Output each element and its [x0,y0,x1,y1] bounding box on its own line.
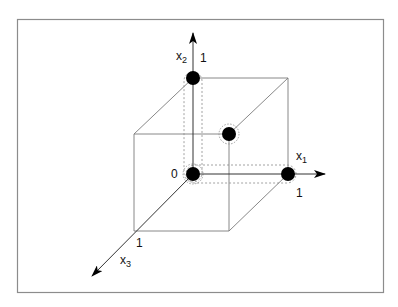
origin-label: 0 [171,167,178,181]
x2-axis-label: x2 [176,49,187,65]
x3-tick-label: 1 [136,236,143,250]
point-x1-unit [281,167,295,181]
x3-axis-label: x3 [120,253,131,269]
highlight-regions [183,72,296,184]
cube-edge [229,78,288,134]
point-x2-unit [186,71,200,85]
cube [134,78,288,231]
diagram-canvas: x2 1 x1 1 x3 1 0 [0,0,398,307]
axes [92,33,325,276]
x1-axis-label: x1 [296,149,307,165]
x1-tick-label: 1 [296,186,303,200]
cube-edge [229,174,288,231]
point-origin [186,167,200,181]
labels: x2 1 x1 1 x3 1 0 [120,49,307,269]
x2-tick-label: 1 [200,51,207,65]
x3-axis [92,174,193,276]
point-x3-unit [222,127,236,141]
